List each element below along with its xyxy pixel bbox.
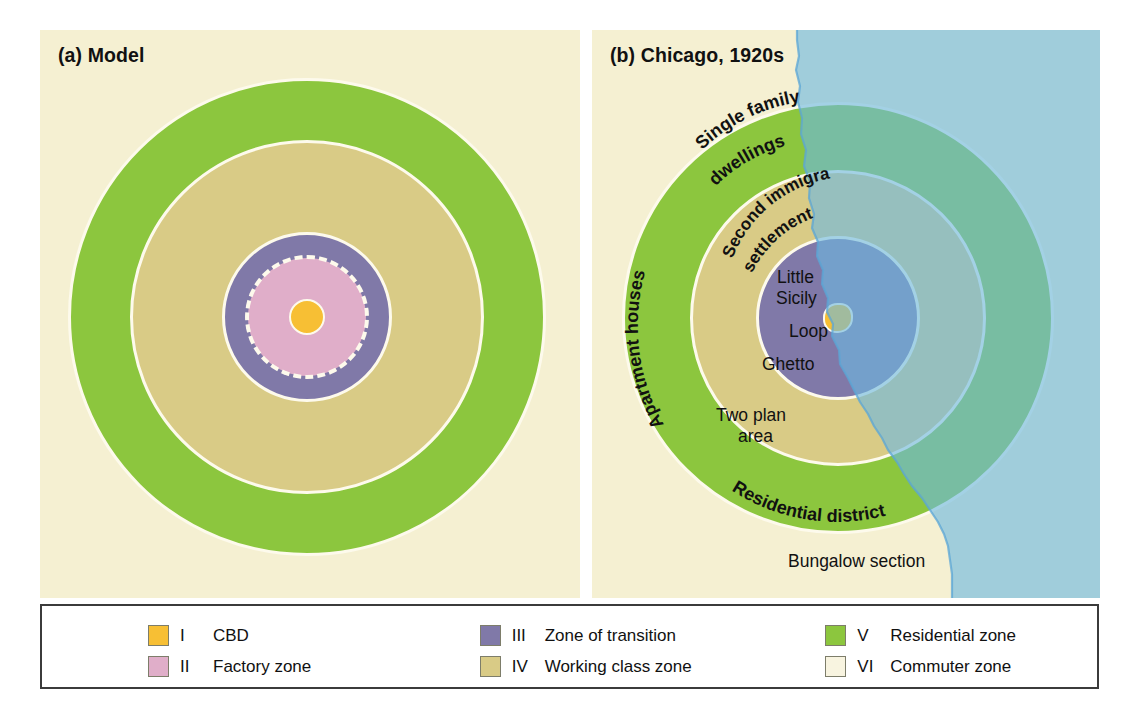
label-two-plan: Two plan [716, 405, 786, 426]
legend-label-factory: Factory zone [213, 657, 311, 677]
chicago-curved-labels: Single family dwellings Second immigrant… [592, 30, 1100, 598]
concentric-zone-figure: (a) Model (b) Chicago, 1920s [0, 0, 1139, 722]
label-little: Little [777, 267, 814, 288]
legend-item-working-class: IV Working class zone [480, 656, 746, 677]
label-ghetto: Ghetto [762, 354, 815, 375]
legend-item-residential: V Residential zone [825, 625, 1097, 646]
legend-label-transition: Zone of transition [545, 626, 676, 646]
legend-swatch-transition [480, 625, 501, 646]
legend-numeral-working-class: IV [512, 657, 534, 677]
legend-column-2: III Zone of transition IV Working class … [394, 625, 746, 677]
legend-column-1: I CBD II Factory zone [42, 625, 394, 677]
legend-item-commuter: VI Commuter zone [825, 656, 1097, 677]
legend-swatch-working-class [480, 656, 501, 677]
legend-numeral-factory: II [180, 657, 202, 677]
legend-label-cbd: CBD [213, 626, 249, 646]
legend-swatch-factory [148, 656, 169, 677]
legend-item-transition: III Zone of transition [480, 625, 746, 646]
panel-chicago: (b) Chicago, 1920s Single family [592, 30, 1100, 598]
legend-item-cbd: I CBD [148, 625, 394, 646]
legend-numeral-cbd: I [180, 626, 202, 646]
legend-swatch-cbd [148, 625, 169, 646]
zone-cbd-model [289, 299, 325, 335]
panel-model-title: (a) Model [58, 44, 144, 67]
legend-numeral-commuter: VI [857, 657, 879, 677]
legend-column-3: V Residential zone VI Commuter zone [745, 625, 1097, 677]
legend-label-residential: Residential zone [890, 626, 1016, 646]
legend-numeral-residential: V [857, 626, 879, 646]
legend-label-working-class: Working class zone [545, 657, 692, 677]
label-loop: Loop [789, 321, 828, 342]
label-apartment-houses: Apartment houses [622, 268, 668, 433]
label-sicily: Sicily [776, 288, 817, 309]
legend-swatch-commuter [825, 656, 846, 677]
legend-numeral-transition: III [512, 626, 534, 646]
legend-item-factory: II Factory zone [148, 656, 394, 677]
label-bungalow-section: Bungalow section [788, 551, 925, 572]
legend: I CBD II Factory zone III Zone of transi… [40, 604, 1099, 689]
legend-label-commuter: Commuter zone [890, 657, 1011, 677]
legend-swatch-residential [825, 625, 846, 646]
panel-chicago-title: (b) Chicago, 1920s [610, 44, 784, 67]
label-residential-district: Residential district [729, 477, 887, 526]
panel-model: (a) Model [40, 30, 580, 598]
label-area: area [738, 426, 773, 447]
